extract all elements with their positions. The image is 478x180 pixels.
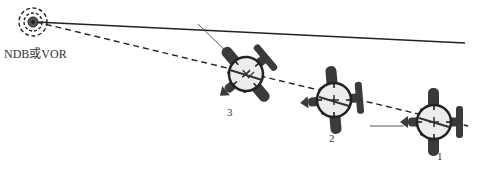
aircraft-3-label: 3 — [227, 106, 233, 118]
station-label: NDB或VOR — [4, 44, 67, 62]
aircraft-1-label: 1 — [437, 150, 443, 162]
reference-line — [36, 22, 465, 43]
aircraft-2-label: 2 — [329, 132, 335, 144]
instrument-2-icon — [317, 83, 351, 117]
instrument-1-icon — [417, 105, 451, 139]
heading-pointer-3 — [198, 24, 232, 57]
bearing-intercept-diagram — [0, 0, 478, 180]
